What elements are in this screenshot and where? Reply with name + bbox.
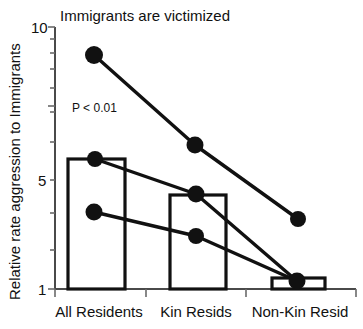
- chart-canvas: Immigrants are victimized Relative rate …: [0, 0, 363, 329]
- data-point-s1-c2: [187, 137, 204, 154]
- y-tick-label-1: 1: [38, 281, 46, 298]
- data-point-s2-c1: [87, 151, 103, 167]
- data-point-s3-c1: [86, 204, 103, 221]
- x-tick-label-all-residents: All Residents: [55, 303, 143, 320]
- x-tick-label-kin-resids: Kin Resids: [160, 303, 232, 320]
- y-tick-label-10: 10: [31, 19, 48, 36]
- y-tick-label-5: 5: [38, 172, 46, 189]
- y-axis-ticks: [48, 27, 55, 289]
- data-point-s3-c2: [188, 228, 204, 244]
- x-tick-label-non-kin-resid: Non-Kin Resid: [252, 303, 349, 320]
- data-point-s1-c1: [85, 46, 103, 64]
- data-point-s1-c3: [290, 211, 306, 227]
- p-value-annotation: P < 0.01: [72, 101, 117, 115]
- data-point-s2-c2: [188, 186, 205, 203]
- bar-all-residents: [68, 159, 125, 289]
- chart-figure: Immigrants are victimized Relative rate …: [0, 0, 363, 329]
- data-point-s2-c3: [289, 273, 306, 290]
- y-axis-label: Relative rate aggression to Immigrants: [6, 43, 23, 300]
- chart-title: Immigrants are victimized: [60, 7, 230, 24]
